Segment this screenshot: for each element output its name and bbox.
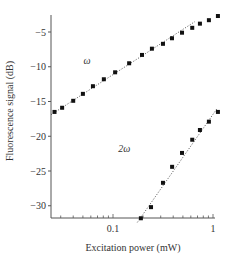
data-point (71, 99, 75, 103)
x-tick-label: 0.1 (107, 223, 120, 234)
data-point (81, 92, 85, 96)
data-point (139, 216, 143, 220)
axes: −5−10−15−20−25−300.11Excitation power (m… (4, 15, 216, 254)
data-point (198, 22, 202, 26)
chart: −5−10−15−20−25−300.11Excitation power (m… (0, 0, 229, 262)
data-point (180, 151, 184, 155)
series-label: 2ω (118, 143, 130, 154)
data-point (149, 205, 153, 209)
data-point (190, 138, 194, 142)
y-tick-label: −25 (30, 166, 46, 177)
data-point (102, 77, 106, 81)
data-point (60, 106, 64, 110)
x-tick-label: 1 (211, 223, 216, 234)
data-point (52, 110, 56, 114)
fit-lines (51, 22, 217, 223)
data-point (127, 61, 131, 65)
data-point (161, 181, 165, 185)
y-tick-label: −30 (30, 200, 46, 211)
y-tick-label: −15 (30, 96, 46, 107)
data-point (170, 36, 174, 40)
data-point (207, 120, 211, 124)
data-point (207, 18, 211, 22)
data-points (52, 14, 219, 220)
data-point (216, 14, 220, 18)
y-tick-label: −10 (30, 61, 46, 72)
x-axis-title: Excitation power (mW) (86, 242, 181, 254)
y-tick-label: −5 (35, 27, 46, 38)
data-point (198, 128, 202, 132)
data-point (161, 42, 165, 46)
data-point (113, 70, 117, 74)
data-point (190, 26, 194, 30)
y-axis-title: Fluorescence signal (dB) (4, 61, 16, 161)
y-tick-label: −20 (30, 131, 46, 142)
data-point (140, 53, 144, 57)
data-point (180, 31, 184, 35)
data-point (216, 110, 220, 114)
data-point (150, 47, 154, 51)
data-point (91, 84, 95, 88)
series-label: ω (84, 55, 91, 66)
data-point (170, 165, 174, 169)
labels: ω2ω (84, 55, 131, 154)
